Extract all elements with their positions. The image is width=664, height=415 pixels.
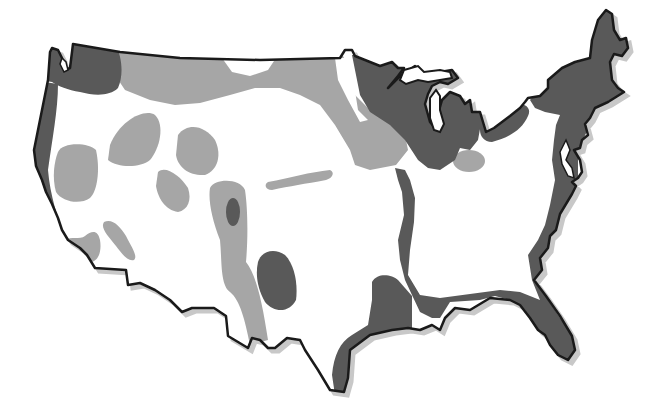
zone-colorado-core — [226, 198, 240, 226]
zone-ohio-light — [453, 150, 485, 172]
us-map — [0, 0, 664, 415]
us-map-svg — [0, 0, 664, 415]
zone-nevada-blob — [54, 144, 98, 202]
